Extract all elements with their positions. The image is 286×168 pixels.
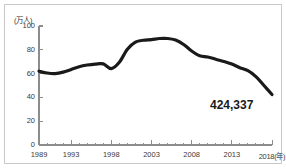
line-chart-plot bbox=[0, 0, 286, 168]
axes-group bbox=[39, 26, 272, 145]
chart-figure: (万人) 100806040200 1989199319982003200820… bbox=[0, 0, 286, 168]
data-series-line bbox=[39, 38, 272, 94]
y-axis-ticks bbox=[39, 26, 43, 145]
value-annotation: 424,337 bbox=[210, 98, 253, 112]
x-axis-ticks bbox=[39, 140, 272, 145]
